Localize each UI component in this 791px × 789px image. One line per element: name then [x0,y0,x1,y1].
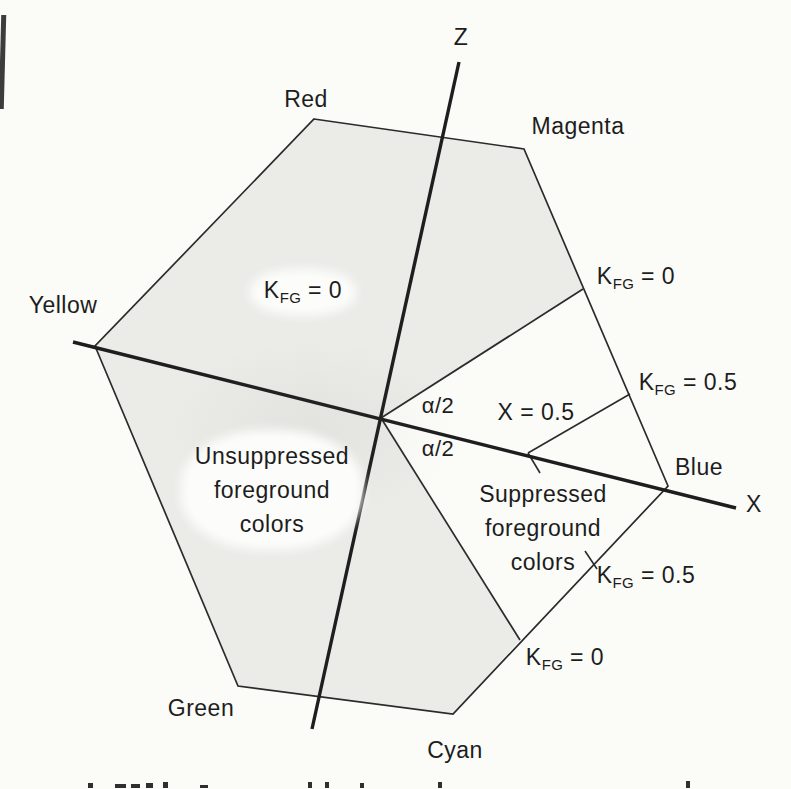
caption-fragment [360,783,364,788]
kfg-subscript: FG [613,275,634,292]
caption-fragment [88,783,93,788]
kfg-zero-region-label: KFG = 0 [258,277,348,308]
caption-fragment [115,784,126,788]
kfg-subscript: FG [655,381,676,398]
vertex-label-yellow: Yellow [29,293,98,318]
kfg-base: K [264,277,280,303]
vertex-label-cyan: Cyan [427,738,483,763]
x-half-label: X = 0.5 [497,400,574,425]
kfg-value: = 0 [563,644,604,670]
caption-fragment [131,784,140,788]
caption-fragment [146,783,153,788]
kfg0-upper-label: KFG = 0 [597,264,675,293]
kfg0-lower-label: KFG = 0 [526,645,604,674]
vertex-label-blue: Blue [675,455,723,480]
kfg-value: = 0 [634,263,675,289]
suppressed-region-label: Suppressed foreground colors [479,477,607,579]
kfg05-lower-label: KFG = 0.5 [597,563,695,592]
kfg-subscript: FG [542,656,563,673]
caption-fragment [200,785,208,788]
caption-fragment [325,782,329,788]
kfg-base: K [597,263,613,289]
kfg-subscript: FG [613,574,634,591]
vertex-label-magenta: Magenta [531,114,624,139]
z-axis-label: Z [454,25,469,50]
kfg-base: K [526,644,542,670]
kfg-value: = 0.5 [676,369,737,395]
caption-fragment [163,782,168,788]
caption-fragment [438,782,442,788]
alpha-half-upper-label: α/2 [422,394,455,418]
scanned-figure-page: Z X Red Magenta Yellow Blue Green Cyan K… [0,0,791,789]
kfg05-upper-label: KFG = 0.5 [639,370,737,399]
caption-fragment [686,781,690,788]
vertex-label-red: Red [284,87,328,112]
kfg-subscript: FG [280,289,301,306]
kfg-base: K [639,369,655,395]
vertex-label-green: Green [168,696,234,721]
alpha-half-lower-label: α/2 [422,437,455,461]
x-axis-label: X [746,492,762,517]
kfg-value: = 0 [301,277,342,303]
kfg-value: = 0.5 [634,562,695,588]
caption-fragment [308,782,312,788]
unsuppressed-region-label: Unsuppressed foreground colors [189,438,355,542]
kfg-base: K [597,562,613,588]
